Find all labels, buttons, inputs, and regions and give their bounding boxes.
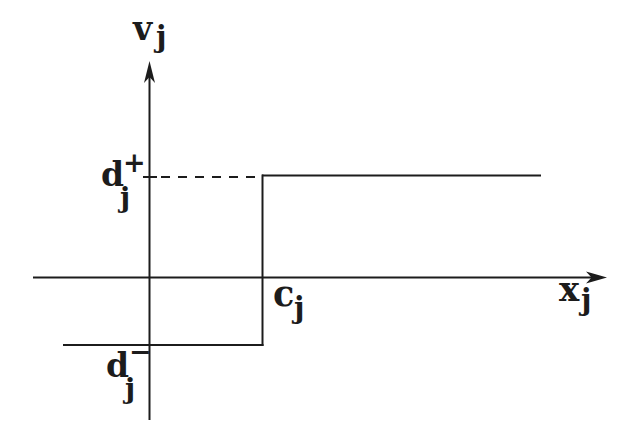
- y-axis-label-base: v: [133, 12, 152, 45]
- y-axis-label-subscript: j: [156, 23, 167, 52]
- y-axis-label: v j: [133, 12, 193, 76]
- x-axis-label-subscript: j: [581, 286, 592, 315]
- lower-level-label: d − j: [106, 347, 166, 417]
- upper-level-label: d + j: [101, 156, 161, 226]
- threshold-label-subscript: j: [294, 294, 305, 323]
- threshold-label: c j: [273, 276, 329, 336]
- upper-level-label-superscript: +: [123, 149, 146, 176]
- lower-level-label-superscript: −: [129, 338, 152, 365]
- upper-level-label-subscript: j: [120, 184, 130, 212]
- lower-level-label-subscript: j: [125, 375, 135, 403]
- axes-and-curve-canvas: [0, 0, 638, 438]
- step-function-figure: v j d + j d − j c j x j: [0, 0, 638, 438]
- x-axis-label: x j: [559, 272, 619, 332]
- x-axis-label-base: x: [559, 272, 579, 306]
- threshold-label-base: c: [273, 276, 294, 311]
